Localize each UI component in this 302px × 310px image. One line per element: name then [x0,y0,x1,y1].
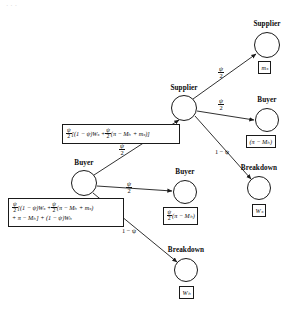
payoff-supplier-top-text: mₛ [262,64,268,71]
payoff-box-supplier-mid: ψ2[(1 − ψ)Wₛ +ψ2(π − Mₕ + mₛ)] [62,124,180,144]
node-supplier-top[interactable] [254,32,280,58]
node-label-buyer-top: Buyer [245,96,289,104]
edge-label-buyer-to-supplier-mid: ψ2 [119,143,125,157]
edge-fraction-2: ψ2 [218,98,224,112]
payoff-buyer-right-rest: (π − Mₕ) [172,211,195,218]
node-label-supplier-mid: Supplier [160,84,208,92]
payoff-buyer-top: (π − Mₕ) [246,135,276,148]
payoff-breakdown-upper-text: Wₛ [256,207,263,214]
payoff-breakdown-upper: Wₛ [252,204,266,217]
buyer-mid-line-1: ψ2[(1 − ψ)Wₛ +ψ2(π − Mₕ + mₛ) [12,202,120,215]
buyer-mid-line-2: + π − Mₕ] + (1 − ψ)Wₕ [12,214,120,223]
buyer-mid-term-a: [(1 − ψ)Wₛ + [18,203,52,210]
supplier-mid-term-b: (π − Mₕ + mₛ)] [111,129,150,136]
edge-label-buyer-to-breakdown: 1 − ψ [122,227,136,234]
node-label-supplier-top: Supplier [243,20,291,28]
edge-fraction-1: ψ2 [218,66,224,80]
node-buyer-right[interactable] [173,180,197,204]
payoff-breakdown-lower: Wₕ [179,286,194,299]
payoff-buyer-top-text: (π − Mₕ) [250,138,273,145]
node-supplier-mid[interactable] [171,95,197,121]
node-label-breakdown-lower: Breakdown [158,246,214,254]
edge-label-buyer-to-buyer-right: ψ2 [126,181,132,195]
node-buyer-mid[interactable] [71,170,97,196]
payoff-buyer-right: ψ2(π − Mₕ) [163,207,198,225]
supplier-mid-term-a: [(1 − ψ)Wₛ + [72,129,106,136]
node-breakdown-lower[interactable] [174,258,198,282]
edge-label-mid-to-supplier-top: ψ2 [218,66,224,80]
edge-label-mid-to-buyer-top: ψ2 [218,98,224,112]
diagram-canvas: ··· Supplier mₛ Supplier Buyer (π − Mₕ) … [0,0,302,310]
edge-label-mid-to-breakdown: 1 − ψ [215,148,229,155]
buyer-mid-term-b: (π − Mₕ + mₛ) [57,203,93,210]
edge-fraction-4: ψ2 [126,181,132,195]
edge-fraction-3: ψ2 [119,143,125,157]
node-buyer-top[interactable] [255,108,279,132]
node-breakdown-upper[interactable] [247,176,271,200]
payoff-box-buyer-mid: ψ2[(1 − ψ)Wₛ +ψ2(π − Mₕ + mₛ) + π − Mₕ] … [8,198,124,227]
node-label-buyer-right: Buyer [163,168,207,176]
payoff-breakdown-lower-text: Wₕ [183,289,191,296]
node-label-breakdown-upper: Breakdown [231,164,287,172]
payoff-supplier-top: mₛ [258,61,271,74]
node-label-buyer-mid: Buyer [62,159,106,167]
